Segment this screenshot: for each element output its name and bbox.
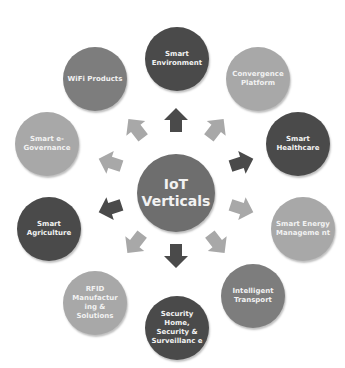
arrow-up-icon [164, 108, 188, 132]
arrow-left-icon [95, 147, 125, 177]
arrow-down-icon [164, 244, 188, 268]
node-rfid-manufacturing: RFID Manufactur ing & Solutions [63, 271, 127, 335]
arrow-up-right-icon [199, 112, 233, 146]
arrow-down-right-icon [200, 227, 234, 261]
center-node-iot-verticals: IoT Verticals [137, 154, 215, 232]
arrow-up-left-icon [119, 112, 153, 146]
center-label-line1: IoT [142, 176, 211, 193]
node-convergence-platform: Convergence Platform [226, 47, 290, 111]
node-security-home-surveillance: Security Home, Security & Surveillanc e [145, 296, 209, 360]
center-label-line2: Verticals [142, 193, 211, 210]
node-smart-healthcare: Smart Healthcare [266, 112, 330, 176]
arrow-left-lower-icon [95, 193, 125, 223]
node-smart-agriculture: Smart Agriculture [17, 197, 81, 261]
node-smart-environment: Smart Environment [145, 27, 209, 91]
iot-verticals-diagram: IoT Verticals Smart Environment Converge… [0, 0, 345, 368]
node-smart-e-governance: Smart e-Governance [15, 112, 79, 176]
node-intelligent-transport: Intelligent Transport [221, 264, 285, 328]
arrow-down-left-icon [118, 227, 152, 261]
node-smart-energy-management: Smart Energy Manageme nt [271, 197, 335, 261]
arrow-right-icon [227, 147, 257, 177]
node-wifi-products: WiFi Products [63, 47, 127, 111]
arrow-right-lower-icon [227, 193, 257, 223]
